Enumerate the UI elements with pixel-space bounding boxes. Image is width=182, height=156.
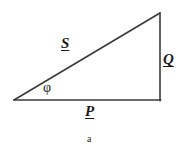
triangle-edge-hypotenuse [14,13,160,100]
vector-triangle-figure: S Q P φ a [0,0,182,156]
angle-label-phi: φ [43,81,51,95]
vector-label-p: P [85,104,94,119]
vector-label-s: S [61,36,69,51]
triangle-graphic [0,0,182,156]
vector-label-q: Q [163,52,174,67]
figure-caption: a [87,134,91,144]
